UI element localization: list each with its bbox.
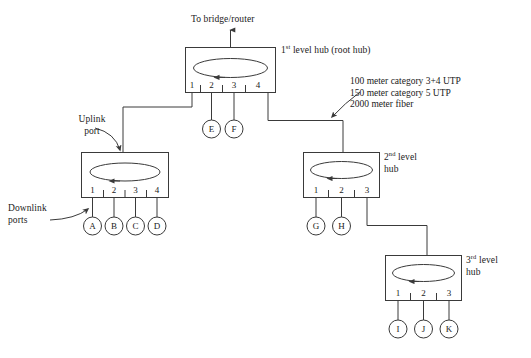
root-hub-port-2: 2 [206,80,218,90]
node-h-label: H [333,217,351,235]
second-level-hub-label: 2nd level hub [384,152,454,175]
downlink-ports-label: Downlink ports [8,203,66,226]
third-hub-port-2: 2 [418,288,430,298]
network-topology-diagram: To bridge/router 1st level hub (root hub… [0,0,531,358]
second-hub-port-1: 1 [310,185,322,195]
left-hub-port-3: 3 [130,185,142,195]
third-level-hub-label: 3rd level hub [466,255,531,278]
cable-spec-item-3: 2000 meter fiber [350,99,461,111]
left-hub-port-1: 1 [87,185,99,195]
cable-specs-block: 100 meter category 3+4 UTP 150 meter cat… [350,76,461,111]
node-b-label: B [105,217,123,235]
second-level-hub-label-rest: level [396,152,417,162]
third-hub-port-3: 3 [443,288,455,298]
node-k-label: K [440,320,458,338]
third-hub-port-1: 1 [392,288,404,298]
node-c-label: C [127,217,145,235]
root-hub-port-1: 1 [186,80,198,90]
node-a-label: A [84,217,102,235]
cable-spec-item-2: 150 meter category 5 UTP [350,88,461,100]
root-hub-label-rest: level hub (root hub) [290,45,370,55]
uplink-port-label-line2: port [84,126,100,136]
diagram-canvas [0,0,531,358]
left-hub-port-2: 2 [108,185,120,195]
to-bridge-router-label: To bridge/router [191,14,254,26]
node-i-label: I [389,320,407,338]
node-f-label: F [225,120,243,138]
third-level-hub-label-rest: level [476,255,497,265]
downlink-ports-label-line2: ports [8,215,28,225]
second-hub-port-2: 2 [336,185,348,195]
root-hub-port-4: 4 [252,80,264,90]
node-d-label: D [148,217,166,235]
uplink-port-label: Uplink port [62,114,122,137]
link-second-hub-port3-to-third-level-hub [367,198,427,256]
cable-spec-item-1: 100 meter category 3+4 UTP [350,76,461,88]
node-g-label: G [307,217,325,235]
node-j-label: J [415,320,433,338]
link-root-port4-to-second-level-hub [268,93,343,153]
node-e-label: E [203,120,221,138]
downlink-ports-label-line1: Downlink [8,203,47,213]
second-hub-port-3: 3 [361,185,373,195]
second-level-hub-label-sup: nd [389,150,396,157]
root-hub-port-3: 3 [228,80,240,90]
link-root-port1-to-left-hub [123,93,192,153]
uplink-port-label-line1: Uplink [79,114,106,124]
root-hub-label: 1st level hub (root hub) [281,45,371,57]
left-hub-port-4: 4 [151,185,163,195]
second-level-hub-label-line2: hub [384,164,399,174]
third-level-hub-label-line2: hub [466,267,481,277]
